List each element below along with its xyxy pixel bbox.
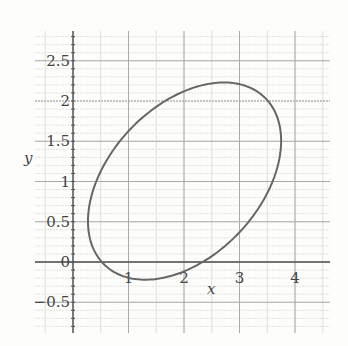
x-tick-label: 3 (235, 269, 245, 287)
y-tick-label: 1.5 (46, 132, 70, 150)
y-tick-label: 2 (60, 92, 70, 110)
y-tick-label: 1 (60, 173, 70, 191)
x-tick-label: 4 (290, 269, 300, 287)
major-grid (35, 31, 330, 333)
y-axis-label: y (23, 149, 33, 167)
y-tick-label: 0.5 (46, 213, 70, 231)
y-tick-label: −0.5 (34, 293, 70, 311)
y-tick-label: 2.5 (46, 52, 70, 70)
x-axis-label: x (207, 280, 216, 298)
y-tick-label: 0 (60, 253, 70, 271)
ellipse-chart: −0.500.511.522.51234 x y (0, 0, 348, 346)
